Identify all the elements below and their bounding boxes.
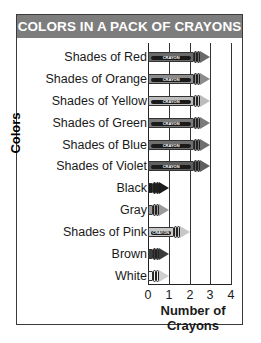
x-tick-label: 3 bbox=[204, 288, 216, 302]
crayon-bar bbox=[148, 248, 169, 260]
crayon-tip-icon bbox=[200, 51, 210, 63]
category-label: Brown bbox=[112, 246, 147, 262]
crayon-label-icon: CRAYON bbox=[151, 144, 191, 148]
crayon-tip-icon bbox=[200, 117, 210, 129]
crayon-tip-icon bbox=[200, 95, 210, 107]
x-axis-label: Number of Crayons bbox=[145, 303, 241, 333]
crayon-bar bbox=[148, 182, 169, 194]
crayon-tip-icon bbox=[200, 160, 210, 172]
category-label: Shades of Blue bbox=[62, 137, 147, 153]
crayon-label-icon: CRAYON bbox=[151, 56, 191, 60]
y-axis-label: Colors bbox=[8, 98, 24, 168]
crayon-bar: CRAYON bbox=[148, 117, 210, 129]
x-tick-label: 0 bbox=[142, 288, 154, 302]
crayon-bar: CRAYON bbox=[148, 226, 190, 238]
category-label: Shades of Violet bbox=[56, 158, 147, 174]
crayon-tip-icon bbox=[159, 270, 169, 282]
crayon-tip-icon bbox=[159, 204, 169, 216]
category-label: Shades of Orange bbox=[46, 71, 147, 87]
category-label: Gray bbox=[120, 202, 147, 218]
crayon-label-icon: CRAYON bbox=[151, 231, 171, 235]
x-tick-label: 1 bbox=[163, 288, 175, 302]
category-label: Shades of Green bbox=[52, 115, 147, 131]
crayon-bar: CRAYON bbox=[148, 51, 210, 63]
crayon-bar: CRAYON bbox=[148, 73, 210, 85]
x-tick-label: 2 bbox=[184, 288, 196, 302]
crayon-bar bbox=[148, 270, 169, 282]
chart-title: COLORS IN A PACK OF CRAYONS bbox=[17, 15, 242, 38]
crayon-bar bbox=[148, 204, 169, 216]
category-label: Black bbox=[116, 180, 147, 196]
category-label: Shades of Red bbox=[64, 49, 147, 65]
crayon-bar: CRAYON bbox=[148, 139, 210, 151]
crayon-bar: CRAYON bbox=[148, 160, 210, 172]
crayon-tip-icon bbox=[200, 139, 210, 151]
gridline bbox=[231, 43, 232, 285]
crayon-tip-icon bbox=[180, 226, 190, 238]
crayon-tip-icon bbox=[159, 182, 169, 194]
crayon-tip-icon bbox=[200, 73, 210, 85]
crayon-label-icon: CRAYON bbox=[151, 165, 191, 169]
crayon-label-icon: CRAYON bbox=[151, 100, 191, 104]
crayon-tip-icon bbox=[159, 248, 169, 260]
category-label: Shades of Pink bbox=[63, 224, 147, 240]
category-label: White bbox=[115, 268, 147, 284]
x-tick-label: 4 bbox=[225, 288, 237, 302]
crayon-label-icon: CRAYON bbox=[151, 122, 191, 126]
crayon-label-icon: CRAYON bbox=[151, 78, 191, 82]
crayon-bar: CRAYON bbox=[148, 95, 210, 107]
category-label: Shades of Yellow bbox=[52, 93, 147, 109]
